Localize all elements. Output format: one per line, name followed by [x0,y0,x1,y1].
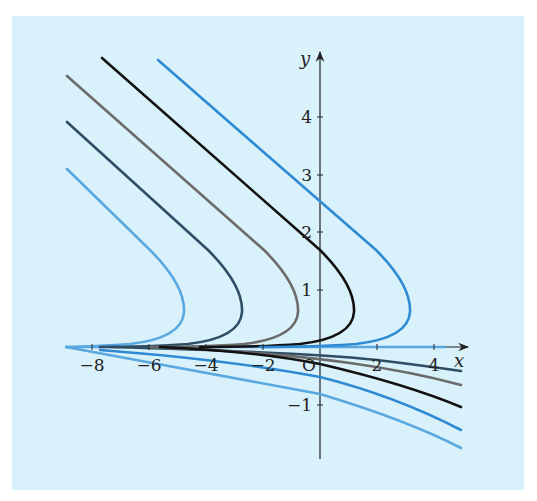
y-tick-label: 3 [301,165,312,185]
x-tick-label: −8 [79,355,104,375]
x-tick-label: −6 [136,355,161,375]
x-tick-label: 4 [429,355,440,375]
x-tick-label: −2 [250,355,275,375]
x-axis-label: x [454,350,464,371]
y-axis-label: y [299,48,311,69]
x-tick-label: −4 [193,355,218,375]
x-tick-label: 2 [372,355,383,375]
y-tick-label: −1 [287,395,312,415]
y-tick-label: 1 [301,280,312,300]
y-tick-label: 2 [301,222,312,242]
origin-label: O [302,355,316,375]
chart: −8 −6 −4 −2 2 4 O 4 3 2 1 −1 x y [0,0,537,501]
y-tick-label: 4 [301,107,312,127]
